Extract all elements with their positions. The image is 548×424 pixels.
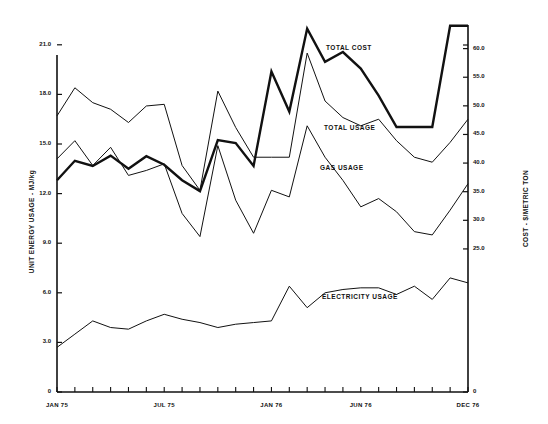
y-axis-left-tick-label: 3.0 — [25, 338, 51, 344]
y-axis-left-tick-label: 18.0 — [25, 90, 51, 96]
y-axis-left-tick-label: 6.0 — [25, 289, 51, 295]
chart-figure: UNIT ENERGY USAGE - MJ/kg COST - $/METRI… — [0, 0, 548, 424]
y-axis-right-tick-label: 55.0 — [473, 73, 503, 79]
y-axis-left-tick-label: 12.0 — [25, 190, 51, 196]
x-axis-tick-label: JUL 75 — [142, 402, 186, 408]
y-axis-right-tick-label: 0 — [473, 388, 503, 394]
series-line-electricity-usage — [57, 278, 468, 347]
y-axis-right-tick-label: 60.0 — [473, 45, 503, 51]
y-axis-right-tick-label: 35.0 — [473, 188, 503, 194]
series-line-total-cost — [57, 26, 468, 191]
x-axis-tick-label: JAN 75 — [35, 402, 79, 408]
x-axis-tick-label: JUN 76 — [339, 402, 383, 408]
series-annotation-total-cost: TOTAL COST — [326, 44, 372, 51]
x-axis-tick-label: JAN 76 — [249, 402, 293, 408]
series-annotation-total-usage: TOTAL USAGE — [324, 124, 375, 131]
y-axis-right-tick-label: 45.0 — [473, 130, 503, 136]
x-axis-tick-label: DEC 76 — [446, 402, 490, 408]
y-axis-right-tick-label: 25.0 — [473, 245, 503, 251]
y-axis-left-tick-label: 0 — [25, 388, 51, 394]
y-axis-right-title: COST - $/METRIC TON — [522, 114, 529, 304]
y-axis-right-tick-label: 50.0 — [473, 102, 503, 108]
series-annotation-gas-usage: GAS USAGE — [320, 164, 364, 171]
y-axis-right-tick-label: 30.0 — [473, 216, 503, 222]
series-annotation-electricity-usage: ELECTRICITY USAGE — [322, 293, 398, 300]
y-axis-left-tick-label: 21.0 — [25, 41, 51, 47]
y-axis-left-tick-label: 15.0 — [25, 140, 51, 146]
y-axis-left-tick-label: 9.0 — [25, 239, 51, 245]
series-line-gas-usage — [57, 126, 468, 237]
y-axis-right-tick-label: 40.0 — [473, 159, 503, 165]
chart-plot-area — [0, 0, 548, 424]
